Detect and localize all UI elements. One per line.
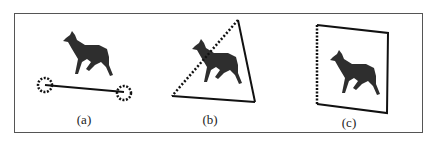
panel-label-b: (b) [202,112,217,128]
deer-silhouette-c [330,50,380,95]
figure: (a) (b) (c) [0,0,442,145]
figure-graphics [0,0,442,145]
triangle-edge-bottom [172,96,255,102]
panel-a [38,31,131,100]
panel-c [317,25,388,113]
endpoint-circle-right [117,86,131,100]
panel-label-a: (a) [77,112,91,128]
deer-silhouette-a [63,31,113,76]
panel-b [172,20,255,102]
triangle-edge-right [238,20,255,102]
segment-line [45,85,124,92]
panel-label-c: (c) [342,115,356,131]
